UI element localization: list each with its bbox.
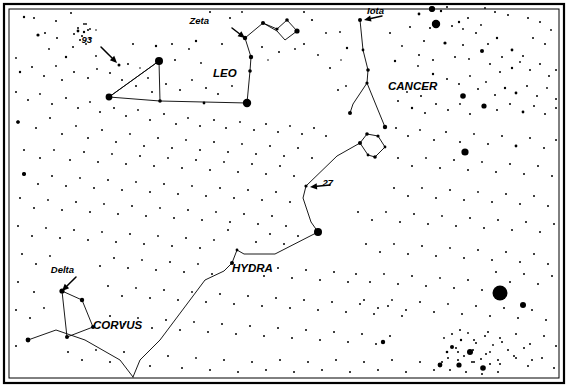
field-star [473,133,475,135]
field-star [75,125,77,127]
field-star [359,303,361,305]
field-star [407,135,409,137]
field-star [345,85,347,87]
field-star [209,369,211,371]
bright-lower-5-star [450,345,454,349]
field-star [371,219,373,221]
field-star [289,307,291,309]
field-star [305,269,307,271]
field-star [471,361,473,363]
cluster-star [481,373,483,375]
field-star [188,48,190,50]
field-star [383,273,385,275]
field-star [271,215,273,217]
bright-lower-3-star [480,365,486,371]
field-star [393,187,395,189]
iota-label: Iota [367,5,384,16]
field-star [139,155,141,157]
field-star [233,197,235,199]
field-star [137,109,139,111]
cluster-star [463,355,465,357]
field-star [255,241,257,243]
field-star [109,315,111,317]
field-star [523,173,525,175]
field-star [293,371,295,373]
delta-label: Delta [51,264,74,275]
cluster-star [449,369,451,371]
field-star [155,45,157,47]
field-star [511,67,513,69]
field-star [513,355,515,357]
field-star [89,101,91,103]
zeta-label: Zeta [188,15,209,26]
field-star [145,215,147,217]
field-star [21,253,23,255]
field-star [127,267,129,269]
field-star [477,191,479,193]
field-star [519,203,521,205]
field-star [397,100,399,102]
field-star [333,271,335,273]
field-star [200,62,202,64]
field-star [494,94,496,96]
field-star [317,54,319,56]
field-star [539,231,541,233]
field-star [453,287,455,289]
field-star [225,127,227,129]
field-star [417,65,419,67]
field-star [157,235,159,237]
field-star [27,99,29,101]
field-star [555,107,557,109]
cluster-star [484,335,486,337]
field-star [419,129,421,131]
field-star [237,371,239,373]
field-star [113,107,115,109]
field-star [205,87,207,89]
leo-93-star [118,64,121,67]
field-star [227,151,229,153]
field-star [447,303,449,305]
field-star [527,17,529,19]
field-star [495,271,497,273]
field-star [51,175,53,177]
field-star [509,163,511,165]
field-star [425,285,427,287]
field-star [121,295,123,297]
field-star [525,221,527,223]
bright-cluster-a-star [461,148,468,155]
field-star [463,199,465,201]
corvus-gamma-star [80,298,84,302]
field-star [55,65,57,67]
field-star [407,253,409,255]
field-star [537,283,539,285]
field-star [107,179,109,181]
field-star [15,57,17,59]
field-star [536,95,538,97]
field-star [55,20,57,22]
field-star [205,301,207,303]
field-star [411,275,413,277]
field-star [443,41,446,44]
field-star [321,369,323,371]
field-star [455,225,457,227]
field-star [17,281,19,283]
field-star [191,79,193,81]
field-star [275,191,277,193]
field-star [441,215,443,217]
field-star [201,219,203,221]
field-star [555,69,557,71]
field-star [553,367,555,369]
bright-mid-left-star [381,340,385,344]
field-star [163,183,165,185]
field-star [147,77,149,79]
cluster-star [446,351,449,354]
field-star [19,197,21,199]
field-star [125,163,127,165]
field-star [99,265,101,267]
field-star [163,289,165,291]
bright-ne-1-star [432,20,440,28]
field-star [43,75,45,77]
cluster-star [460,339,462,341]
field-star [487,331,489,333]
field-star [439,167,441,169]
